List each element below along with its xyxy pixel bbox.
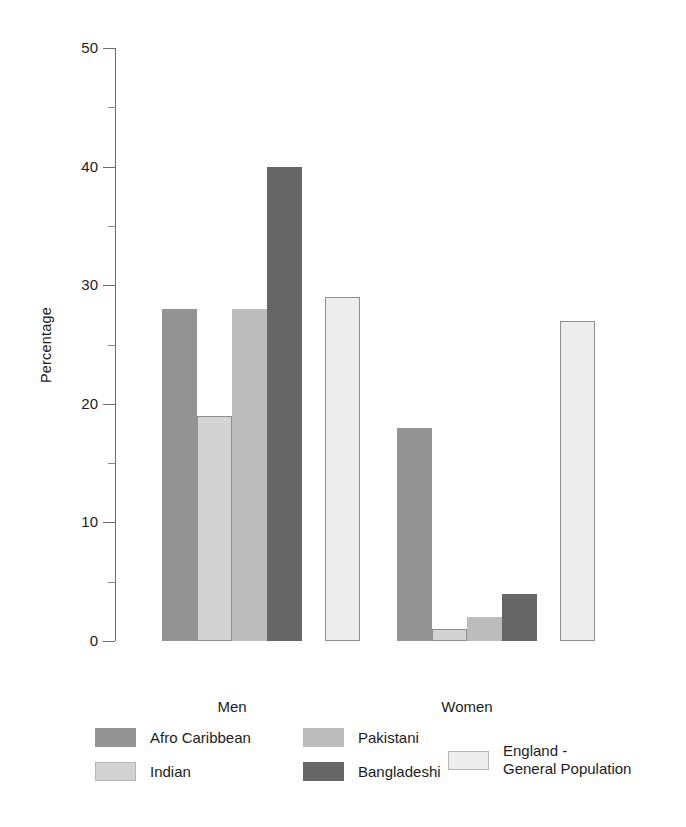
y-tick-minor: [108, 345, 115, 346]
legend-item[interactable]: Afro Caribbean: [95, 728, 251, 747]
chart-legend: Afro CaribbeanIndianPakistaniBangladeshi…: [0, 718, 686, 813]
bar-england-women: [560, 321, 595, 641]
y-tick-label: 0: [90, 633, 98, 648]
bar-pakistani-women: [467, 617, 502, 641]
bar-pakistani-men: [232, 309, 267, 641]
legend-label: Pakistani: [358, 729, 419, 747]
y-tick-minor: [108, 226, 115, 227]
legend-label: Afro Caribbean: [150, 729, 251, 747]
legend-item[interactable]: Bangladeshi: [303, 762, 441, 781]
legend-item[interactable]: Pakistani: [303, 728, 419, 747]
y-tick-minor: [108, 107, 115, 108]
y-tick-label: 10: [81, 514, 98, 529]
y-tick-major: [103, 167, 115, 168]
legend-label: Indian: [150, 763, 191, 781]
legend-swatch-icon: [303, 762, 344, 781]
bar-chart: Percentage 01020304050 MenWomen: [0, 0, 686, 690]
bar-england-men: [325, 297, 360, 641]
legend-label: England - General Population: [503, 742, 631, 778]
legend-label: Bangladeshi: [358, 763, 441, 781]
legend-item[interactable]: England - General Population: [448, 742, 631, 778]
y-tick-minor: [108, 582, 115, 583]
y-tick-major: [103, 404, 115, 405]
y-tick-label: 20: [81, 396, 98, 411]
y-tick-label: 30: [81, 277, 98, 292]
legend-swatch-icon: [95, 762, 136, 781]
bar-bangladeshi-men: [267, 167, 302, 641]
y-tick-minor: [108, 463, 115, 464]
y-axis-label: Percentage: [38, 0, 54, 690]
bar-indian-women: [432, 629, 467, 641]
y-tick-label: 50: [81, 40, 98, 55]
x-axis-group-label-men: Men: [152, 698, 312, 715]
x-axis-group-label-women: Women: [387, 698, 547, 715]
bar-afro-caribbean-men: [162, 309, 197, 641]
y-tick-major: [103, 48, 115, 49]
legend-swatch-icon: [95, 728, 136, 747]
plot-area: MenWomen: [116, 48, 636, 641]
y-tick-major: [103, 522, 115, 523]
y-tick-major: [103, 285, 115, 286]
bar-bangladeshi-women: [502, 594, 537, 641]
bar-afro-caribbean-women: [397, 428, 432, 641]
legend-item[interactable]: Indian: [95, 762, 191, 781]
y-tick-major: [103, 641, 115, 642]
legend-swatch-icon: [448, 751, 489, 770]
legend-swatch-icon: [303, 728, 344, 747]
bar-indian-men: [197, 416, 232, 641]
y-tick-label: 40: [81, 159, 98, 174]
